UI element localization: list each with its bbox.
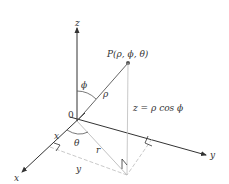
spherical-coordinates-diagram: z x y 0 P(ρ, ϕ, θ) ϕ ρ θ r x y z = ρ cos… <box>0 0 229 184</box>
z-height-line <box>127 63 128 175</box>
phi-label: ϕ <box>81 80 87 90</box>
y-axis-label: y <box>209 150 216 160</box>
z-axis-label: z <box>74 18 80 28</box>
rho-label: ρ <box>102 89 109 99</box>
y-coord-label: y <box>75 164 82 174</box>
theta-arc <box>67 130 88 134</box>
r-line <box>77 121 127 175</box>
r-label: r <box>96 145 101 155</box>
x-axis-label: x <box>14 173 19 183</box>
right-angle-q <box>122 159 127 169</box>
y-projection-dashed <box>50 147 127 175</box>
phi-arc <box>77 91 96 99</box>
right-angle-x <box>54 143 60 151</box>
origin-label: 0 <box>68 110 74 120</box>
x-coord-label: x <box>54 131 59 141</box>
z-equation-label: z = ρ cos ϕ <box>132 103 183 113</box>
theta-label: θ <box>74 138 80 148</box>
point-label: P(ρ, ϕ, θ) <box>106 49 149 59</box>
